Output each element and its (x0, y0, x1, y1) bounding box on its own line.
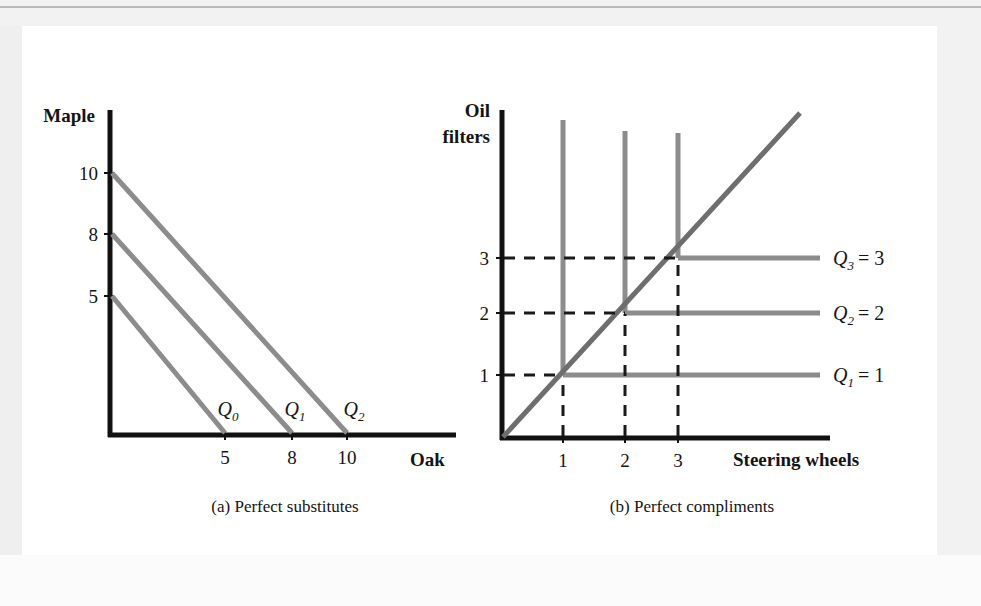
panel-a-x-axis-label: Oak (410, 449, 445, 470)
panel-b-x-axis-label: Steering wheels (733, 449, 859, 470)
panel-b-group: Oil filters Steering wheels 3 2 1 1 2 3 … (443, 100, 885, 516)
panel-b-expansion-ray (503, 113, 800, 437)
figure-svg: Maple Oak 10 8 5 5 8 10 Q0 Q1 Q2 (a) Per… (0, 0, 981, 606)
panel-b-y-axis-label-line2: filters (443, 126, 490, 147)
panel-b-y-tick-label-3: 3 (480, 248, 490, 269)
panel-b-caption: (b) Perfect compliments (610, 497, 774, 516)
panel-b-curve-label-q3: Q3= 3 (833, 247, 884, 273)
panel-a-x-tick-label-8: 8 (287, 447, 297, 468)
panel-b-curve-label-q2: Q2= 2 (833, 302, 884, 328)
panel-a-x-tick-label-10: 10 (338, 447, 357, 468)
panel-b-x-tick-label-1: 1 (558, 450, 568, 471)
panel-b-curve-label-q1: Q1= 1 (833, 364, 884, 390)
panel-b-y-tick-label-2: 2 (480, 303, 490, 324)
panel-a-curve-q0 (112, 296, 225, 433)
panel-a-y-tick-label-8: 8 (89, 224, 99, 245)
panel-b-y-tick-label-1: 1 (480, 365, 490, 386)
panel-a-y-tick-label-5: 5 (89, 286, 99, 307)
panel-a-x-tick-label-5: 5 (220, 447, 230, 468)
panel-b-x-tick-label-3: 3 (673, 450, 683, 471)
panel-a-group: Maple Oak 10 8 5 5 8 10 Q0 Q1 Q2 (a) Per… (43, 105, 456, 516)
panel-a-curve-label-q2: Q2 (344, 398, 365, 424)
panel-a-curve-q2 (112, 173, 347, 433)
panel-b-y-axis-label-line1: Oil (465, 100, 490, 121)
panel-a-y-tick-label-10: 10 (79, 163, 98, 184)
panel-a-curve-label-q0: Q0 (218, 398, 239, 424)
panel-a-y-axis-label: Maple (43, 105, 95, 126)
panel-a-caption: (a) Perfect substitutes (211, 497, 358, 516)
panel-b-x-tick-label-2: 2 (620, 450, 630, 471)
figure-root: Maple Oak 10 8 5 5 8 10 Q0 Q1 Q2 (a) Per… (0, 0, 981, 606)
panel-a-curve-label-q1: Q1 (285, 398, 306, 424)
